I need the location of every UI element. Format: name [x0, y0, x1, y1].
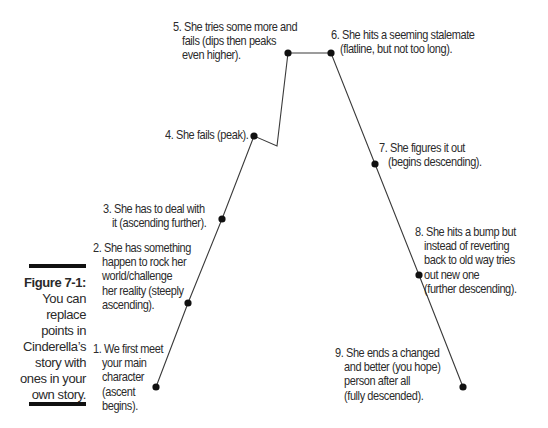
label-line: begins).: [93, 399, 163, 413]
label-line: 4. She fails (peak).: [165, 128, 248, 142]
caption-top-rule: [29, 264, 86, 268]
caption-line: ones in your: [20, 371, 86, 387]
label-line: it (ascending further).: [103, 216, 206, 230]
caption-line: Cinderella’s: [20, 339, 86, 355]
arc-point-8-label: 8. She hits a bump but instead of revert…: [415, 225, 517, 296]
label-line: happen to rock her: [93, 255, 191, 269]
label-line: (flatline, but not too long).: [331, 42, 475, 56]
label-line: (ascent: [93, 385, 163, 399]
caption-bottom-rule: [29, 402, 86, 406]
arc-point-4-dot: [250, 132, 257, 139]
label-line: 5. She tries some more and: [173, 20, 297, 34]
arc-point-4-label: 4. She fails (peak).: [165, 128, 248, 142]
label-line: fails (dips then peaks: [173, 34, 297, 48]
label-line: out new one: [415, 268, 517, 282]
arc-point-2-label: 2. She has something happen to rock her …: [93, 241, 191, 312]
arc-point-5-label: 5. She tries some more and fails (dips t…: [173, 20, 297, 63]
caption-line: points in: [20, 323, 86, 339]
label-line: 8. She hits a bump but: [415, 225, 517, 239]
label-line: person after all: [335, 374, 440, 388]
arc-point-3-dot: [218, 215, 225, 222]
figure-number: Figure 7-1:: [20, 275, 86, 291]
label-line: 2. She has something: [93, 241, 191, 255]
arc-point-7-label: 7. She figures it out (begins descending…: [379, 141, 482, 169]
label-line: (begins descending).: [379, 155, 482, 169]
caption-line: own story.: [20, 387, 86, 403]
label-line: 1. We first meet: [93, 342, 163, 356]
label-line: world/challenge: [93, 269, 191, 283]
label-line: 6. She hits a seeming stalemate: [331, 28, 475, 42]
arc-point-6-label: 6. She hits a seeming stalemate (flatlin…: [331, 28, 475, 56]
label-line: ascending).: [93, 298, 191, 312]
label-line: your main: [93, 356, 163, 370]
label-line: instead of reverting: [415, 239, 517, 253]
label-line: even higher).: [173, 48, 297, 62]
arc-point-3-label: 3. She has to deal with it (ascending fu…: [103, 202, 206, 230]
caption-line: replace: [20, 307, 86, 323]
caption-line: story with: [20, 355, 86, 371]
label-line: back to old way tries: [415, 253, 517, 267]
figure-caption: Figure 7-1: You can replace points in Ci…: [20, 275, 86, 403]
arc-point-1-label: 1. We first meet your main character (as…: [93, 342, 163, 413]
label-line: (further descending).: [415, 282, 517, 296]
arc-point-9-label: 9. She ends a changed and better (you ho…: [335, 346, 440, 403]
label-line: character: [93, 370, 163, 384]
label-line: and better (you hope): [335, 360, 440, 374]
label-line: 7. She figures it out: [379, 141, 482, 155]
caption-line: You can: [20, 291, 86, 307]
label-line: 9. She ends a changed: [335, 346, 440, 360]
label-line: 3. She has to deal with: [103, 202, 206, 216]
label-line: (fully descended).: [335, 389, 440, 403]
label-line: her reality (steeply: [93, 284, 191, 298]
arc-point-7-dot: [371, 160, 378, 167]
arc-point-9-dot: [459, 383, 466, 390]
